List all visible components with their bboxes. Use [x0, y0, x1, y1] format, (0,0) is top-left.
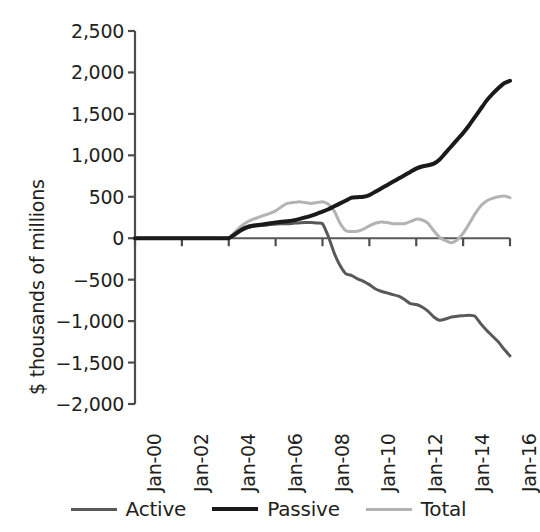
- legend-swatch-passive: [212, 507, 258, 511]
- x-tick-label: Jan-14: [471, 433, 493, 492]
- legend-item-passive[interactable]: Passive: [212, 499, 340, 519]
- x-tick-label: Jan-10: [377, 433, 399, 492]
- x-tick-label: Jan-16: [518, 433, 540, 492]
- chart-legend: ActivePassiveTotal: [0, 494, 537, 524]
- x-tick-label: Jan-08: [331, 433, 353, 492]
- x-tick-label: Jan-06: [284, 433, 306, 492]
- legend-swatch-total: [366, 508, 412, 511]
- x-tick-label: Jan-12: [424, 433, 446, 492]
- x-tick-label: Jan-00: [143, 433, 165, 492]
- x-tick-label: Jan-04: [237, 433, 259, 492]
- legend-label: Active: [126, 499, 187, 519]
- legend-item-total[interactable]: Total: [366, 499, 467, 519]
- legend-label: Passive: [267, 499, 340, 519]
- legend-label: Total: [421, 499, 467, 519]
- legend-swatch-active: [71, 508, 117, 511]
- legend-item-active[interactable]: Active: [71, 499, 187, 519]
- x-tick-label: Jan-02: [190, 433, 212, 492]
